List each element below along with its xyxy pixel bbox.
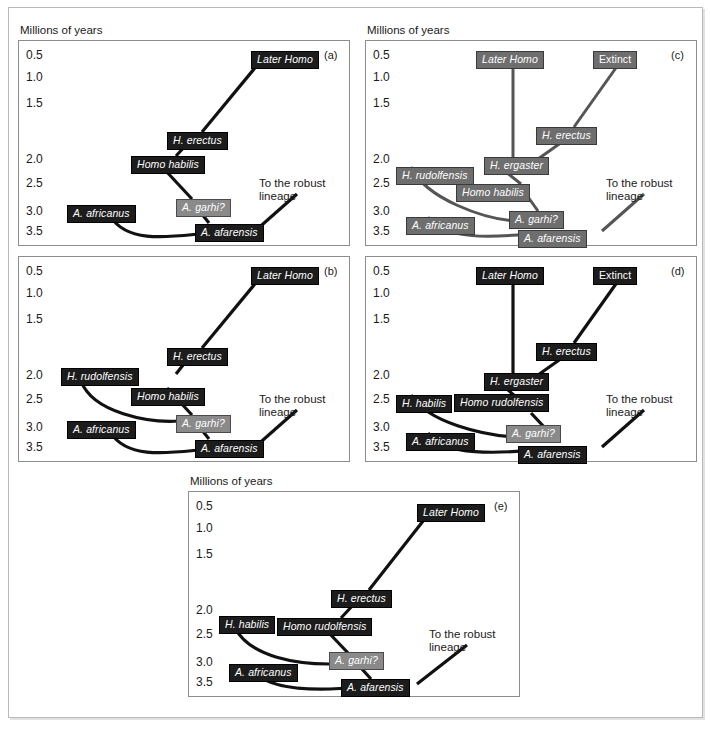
panel-d-taxon-h-ergaster[interactable]: H. ergaster xyxy=(484,373,549,391)
panel-c-taxon-h-erectus[interactable]: H. erectus xyxy=(536,127,597,145)
panel-d-taxon-later-homo[interactable]: Later Homo xyxy=(476,267,544,285)
panel-b-taxon-a-afarensis[interactable]: A. afarensis xyxy=(195,440,264,458)
panel-c-taxon-a-afarensis[interactable]: A. afarensis xyxy=(518,230,587,248)
panel-e-plot-area: (e) 0.5 1.0 1.5 2.0 2.5 3.0 3.5 Later Ho… xyxy=(188,491,520,697)
panel-b-taxon-later-homo[interactable]: Later Homo xyxy=(251,267,319,285)
panel-e-robust-lineage-note: To the robust lineage xyxy=(429,628,495,654)
panel-d-robust-note-line1: To the robust xyxy=(606,393,672,405)
panel-c-taxon-later-homo[interactable]: Later Homo xyxy=(476,51,544,69)
panel-d: (d) 0.5 1.0 1.5 2.0 2.5 3.0 3.5 Later Ho… xyxy=(365,256,697,464)
panel-e-axis-label: Millions of years xyxy=(190,475,272,487)
panel-a-axis-label: Millions of years xyxy=(20,24,102,36)
panel-c-axis-label: Millions of years xyxy=(367,24,449,36)
panel-b-robust-lineage-note: To the robust lineage xyxy=(259,393,325,419)
panel-e-taxon-homo-rudolfensis[interactable]: Homo rudolfensis xyxy=(277,618,372,636)
panel-b: (b) 0.5 1.0 1.5 2.0 2.5 3.0 3.5 Later Ho… xyxy=(18,256,350,464)
panel-e-robust-note-line2: lineage xyxy=(429,641,466,653)
panel-b-taxon-a-africanus[interactable]: A. africanus xyxy=(67,421,136,439)
panel-e-taxon-a-garhi[interactable]: A. garhi? xyxy=(329,652,384,670)
panel-c-taxon-a-garhi[interactable]: A. garhi? xyxy=(509,211,564,229)
panel-a-taxon-later-homo[interactable]: Later Homo xyxy=(251,51,319,69)
panel-b-taxon-h-rudolfensis[interactable]: H. rudolfensis xyxy=(61,368,139,386)
panel-e-taxon-later-homo[interactable]: Later Homo xyxy=(417,504,485,522)
panel-d-robust-note-line2: lineage xyxy=(606,406,643,418)
panel-b-robust-note-line1: To the robust xyxy=(259,393,325,405)
panel-e-taxon-h-erectus[interactable]: H. erectus xyxy=(331,590,392,608)
panel-b-taxon-a-garhi[interactable]: A. garhi? xyxy=(176,415,231,433)
panel-d-plot-area: (d) 0.5 1.0 1.5 2.0 2.5 3.0 3.5 Later Ho… xyxy=(365,256,697,462)
panel-a-taxon-a-africanus[interactable]: A. africanus xyxy=(67,205,136,223)
panel-a-taxon-h-erectus[interactable]: H. erectus xyxy=(167,132,228,150)
panel-d-taxon-a-garhi[interactable]: A. garhi? xyxy=(506,425,561,443)
figure-root: Millions of years (a) 0.5 1.0 1.5 2.0 2.… xyxy=(0,0,710,729)
panel-e: Millions of years (e) 0.5 1.0 1.5 2.0 2.… xyxy=(188,475,520,697)
panel-d-taxon-homo-rudolfensis[interactable]: Homo rudolfensis xyxy=(454,394,549,412)
panel-a-robust-note-line1: To the robust xyxy=(259,177,325,189)
panel-c-taxon-homo-habilis[interactable]: Homo habilis xyxy=(456,184,530,202)
panel-d-taxon-h-habilis[interactable]: H. habilis xyxy=(396,395,452,413)
panel-c-robust-lineage-note: To the robust lineage xyxy=(606,177,672,203)
panel-a-robust-lineage-note: To the robust lineage xyxy=(259,177,325,203)
panel-c-taxon-h-rudolfensis[interactable]: H. rudolfensis xyxy=(396,167,474,185)
panel-a-taxon-a-afarensis[interactable]: A. afarensis xyxy=(195,224,264,242)
figure-caption-sliver xyxy=(10,0,700,6)
panel-b-plot-area: (b) 0.5 1.0 1.5 2.0 2.5 3.0 3.5 Later Ho… xyxy=(18,256,350,462)
panel-a-taxon-a-garhi[interactable]: A. garhi? xyxy=(176,199,231,217)
panel-d-robust-lineage-note: To the robust lineage xyxy=(606,393,672,419)
panel-c-taxon-a-africanus[interactable]: A. africanus xyxy=(406,217,475,235)
panel-c: Millions of years (c) 0.5 1.0 1.5 2.0 2.… xyxy=(365,24,697,246)
panel-e-robust-note-line1: To the robust xyxy=(429,628,495,640)
panel-c-taxon-h-ergaster[interactable]: H. ergaster xyxy=(484,157,549,175)
panel-c-taxon-extinct[interactable]: Extinct xyxy=(593,51,637,69)
panel-e-taxon-a-africanus[interactable]: A. africanus xyxy=(229,664,298,682)
panel-b-robust-note-line2: lineage xyxy=(259,406,296,418)
panel-a-taxon-homo-habilis[interactable]: Homo habilis xyxy=(131,156,205,174)
panel-d-taxon-extinct[interactable]: Extinct xyxy=(593,267,637,285)
panel-e-taxon-a-afarensis[interactable]: A. afarensis xyxy=(341,679,410,697)
panel-b-taxon-h-erectus[interactable]: H. erectus xyxy=(167,348,228,366)
panel-c-plot-area: (c) 0.5 1.0 1.5 2.0 2.5 3.0 3.5 Later Ho… xyxy=(365,40,697,246)
panel-c-robust-note-line2: lineage xyxy=(606,190,643,202)
panel-e-taxon-h-habilis[interactable]: H. habilis xyxy=(219,616,275,634)
panel-b-taxon-homo-habilis[interactable]: Homo habilis xyxy=(131,388,205,406)
panel-c-robust-note-line1: To the robust xyxy=(606,177,672,189)
panel-d-taxon-a-africanus[interactable]: A. africanus xyxy=(406,433,475,451)
panel-a: Millions of years (a) 0.5 1.0 1.5 2.0 2.… xyxy=(18,24,350,246)
panel-a-robust-note-line2: lineage xyxy=(259,190,296,202)
panel-a-plot-area: (a) 0.5 1.0 1.5 2.0 2.5 3.0 3.5 Later Ho… xyxy=(18,40,350,246)
panel-d-taxon-a-afarensis[interactable]: A. afarensis xyxy=(518,446,587,464)
panel-d-taxon-h-erectus[interactable]: H. erectus xyxy=(536,343,597,361)
